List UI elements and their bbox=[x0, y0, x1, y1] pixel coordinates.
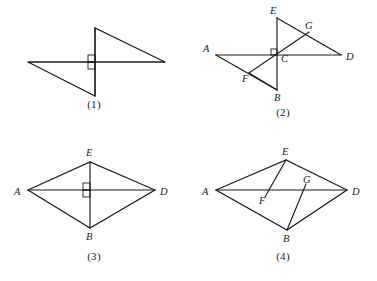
segment-through-F bbox=[249, 73, 277, 90]
figure-3-caption: (3) bbox=[0, 250, 188, 262]
rhombus-outline bbox=[216, 160, 347, 230]
label-C: C bbox=[281, 53, 289, 64]
right-angle-mark-lower bbox=[83, 190, 90, 197]
right-angle-mark-lower bbox=[88, 62, 95, 69]
label-D: D bbox=[345, 51, 354, 62]
label-D: D bbox=[159, 186, 168, 197]
label-E: E bbox=[85, 147, 93, 158]
label-G: G bbox=[305, 20, 313, 31]
label-F: F bbox=[258, 195, 266, 206]
figure-2: A D E B C F G (2) bbox=[189, 0, 377, 140]
right-angle-mark-upper bbox=[88, 55, 95, 62]
figure-3: A D E B (3) bbox=[0, 140, 188, 280]
geometry-figure-sheet: (1) A D E B C F G (2) bbox=[0, 0, 377, 281]
figure-1: (1) bbox=[0, 0, 188, 140]
label-D: D bbox=[351, 186, 360, 197]
label-A: A bbox=[201, 186, 209, 197]
figure-4-caption: (4) bbox=[189, 250, 377, 262]
segment-EF bbox=[265, 160, 286, 197]
figure-1-caption: (1) bbox=[0, 98, 188, 110]
upper-triangle-path bbox=[95, 28, 165, 62]
figure-2-caption: (2) bbox=[189, 106, 377, 118]
figure-4: A D E B F G (4) bbox=[189, 140, 377, 280]
right-angle-mark-upper bbox=[83, 183, 90, 190]
label-B: B bbox=[283, 233, 290, 244]
label-B: B bbox=[86, 231, 93, 242]
label-E: E bbox=[281, 146, 289, 157]
figure-2-drawing: A D E B C F G bbox=[189, 0, 377, 140]
label-E: E bbox=[269, 5, 277, 16]
segment-through-G bbox=[249, 32, 309, 73]
figure-1-drawing bbox=[0, 0, 188, 140]
label-A: A bbox=[13, 186, 21, 197]
label-B: B bbox=[274, 92, 281, 103]
label-G: G bbox=[303, 174, 311, 185]
lower-triangle-path bbox=[28, 62, 95, 96]
label-A: A bbox=[202, 43, 210, 54]
rhombus-outline bbox=[28, 162, 155, 228]
label-F: F bbox=[241, 73, 249, 84]
